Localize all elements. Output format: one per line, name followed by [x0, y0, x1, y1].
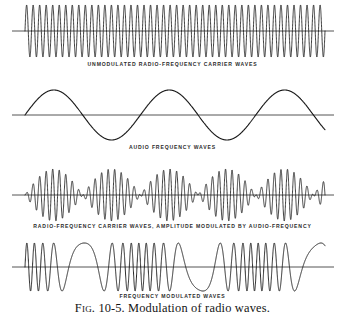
- caption-audio-frequency: AUDIO FREQUENCY WAVES: [0, 144, 345, 150]
- waveform-unmodulated-carrier: [0, 0, 345, 62]
- waveform-audio-frequency: [0, 86, 345, 148]
- waveform-frequency-modulated: [0, 240, 345, 296]
- waveform-amplitude-modulated: [0, 164, 345, 226]
- figure-caption-label: Fig.: [75, 301, 95, 315]
- figure-caption-number: 10-5.: [98, 301, 124, 315]
- caption-unmodulated-carrier: UNMODULATED RADIO-FREQUENCY CARRIER WAVE…: [0, 61, 345, 67]
- figure-modulation-of-radio-waves: UNMODULATED RADIO-FREQUENCY CARRIER WAVE…: [0, 0, 345, 318]
- panel-frequency-modulated: [0, 240, 345, 300]
- caption-amplitude-modulated: RADIO-FREQUENCY CARRIER WAVES, AMPLITUDE…: [0, 223, 345, 229]
- figure-caption: Fig. 10-5. Modulation of radio waves.: [0, 301, 345, 316]
- figure-caption-text: Modulation of radio waves.: [128, 301, 270, 315]
- caption-frequency-modulated: FREQUENCY MODULATED WAVES: [0, 293, 345, 299]
